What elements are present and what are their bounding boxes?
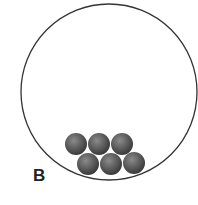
- ball: [111, 133, 133, 155]
- ball-cluster: [65, 133, 145, 175]
- ball: [100, 153, 122, 175]
- ball: [77, 153, 99, 175]
- panel-label: B: [33, 166, 45, 186]
- ball: [65, 133, 87, 155]
- ball: [88, 133, 110, 155]
- diagram-canvas: [0, 0, 198, 205]
- ball: [123, 152, 145, 174]
